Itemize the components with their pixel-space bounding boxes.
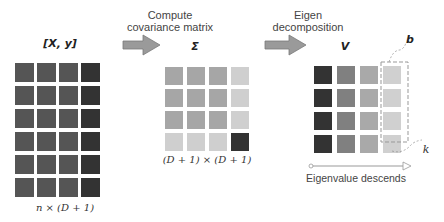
diagram-overlay [0, 0, 444, 222]
eigen-axis-start [309, 164, 313, 168]
b-connector [389, 42, 406, 62]
arrow-eigen-decomposition [265, 35, 306, 55]
eigen-axis-arrowhead [403, 162, 411, 170]
b-dashed-box [381, 62, 408, 142]
arrow-compute-covariance [123, 35, 160, 55]
